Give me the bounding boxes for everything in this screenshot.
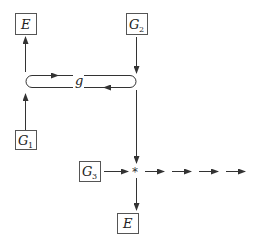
label-g1: G	[18, 133, 28, 148]
node-e-bottom: E	[118, 214, 139, 234]
label-e-top: E	[20, 17, 31, 32]
loop-label-g: g	[75, 73, 83, 88]
label-e-bottom: E	[122, 216, 133, 231]
sub-g2: 2	[139, 25, 144, 34]
sub-g1: 1	[28, 141, 33, 150]
loop-left	[26, 76, 73, 88]
label-g2: G	[129, 17, 139, 32]
node-g1: G 1	[16, 131, 37, 151]
node-g2: G 2	[127, 14, 148, 35]
sub-g3: 3	[92, 172, 97, 181]
diagram-canvas: E G 2 G 1 G 3 E g *	[0, 0, 263, 245]
label-g3: G	[82, 164, 92, 179]
node-g3: G 3	[80, 162, 101, 182]
junction-star: *	[132, 165, 138, 179]
loop-right	[84, 76, 136, 88]
node-e-top: E	[16, 14, 37, 35]
loop-g: g	[26, 73, 136, 88]
